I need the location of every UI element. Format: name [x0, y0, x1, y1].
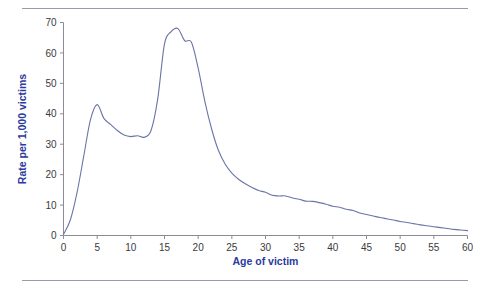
x-tick-label: 15: [159, 242, 171, 253]
y-tick-label: 70: [45, 17, 57, 28]
x-axis-title: Age of victim: [233, 255, 299, 267]
x-tick-label: 0: [61, 242, 67, 253]
x-tick-label: 60: [462, 242, 474, 253]
y-tick-label: 20: [45, 169, 57, 180]
y-axis-title: Rate per 1,000 victims: [16, 74, 28, 184]
y-tick-label: 30: [45, 139, 57, 150]
y-tick-label: 0: [51, 230, 57, 241]
y-axis: [60, 23, 64, 236]
x-tick-label: 55: [428, 242, 440, 253]
x-tick-label: 25: [226, 242, 238, 253]
x-tick-labels: 051015202530354045505560: [61, 242, 474, 253]
chart-figure: 010203040506070 051015202530354045505560…: [0, 0, 490, 289]
x-tick-label: 45: [361, 242, 373, 253]
y-tick-labels: 010203040506070: [45, 17, 57, 241]
x-tick-label: 30: [260, 242, 272, 253]
line-chart: 010203040506070 051015202530354045505560…: [0, 0, 490, 289]
y-tick-label: 60: [45, 48, 57, 59]
data-series-line: [64, 28, 468, 234]
x-tick-label: 5: [94, 242, 100, 253]
x-axis: [64, 236, 468, 240]
x-tick-label: 20: [193, 242, 205, 253]
y-tick-label: 40: [45, 108, 57, 119]
y-tick-label: 10: [45, 200, 57, 211]
x-tick-label: 10: [125, 242, 137, 253]
x-tick-label: 35: [294, 242, 306, 253]
x-tick-label: 40: [327, 242, 339, 253]
x-tick-label: 50: [395, 242, 407, 253]
y-tick-label: 50: [45, 78, 57, 89]
